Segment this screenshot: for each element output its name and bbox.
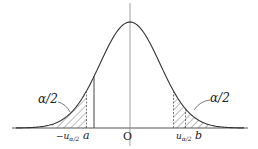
b-label: b: [195, 129, 202, 142]
u-label: uα/2: [176, 131, 192, 142]
left-tail-pointer: [58, 102, 70, 112]
left-tail-label: α/2: [38, 92, 58, 106]
a-label: a: [83, 129, 90, 142]
right-tail-pointer: [194, 100, 210, 110]
origin-label: O: [123, 130, 132, 143]
right-tail-label: α/2: [210, 91, 230, 105]
normal-distribution-diagram: α/2 α/2 −uα/2 a O uα/2 b: [0, 0, 258, 149]
neg-u-label: −uα/2: [56, 131, 79, 142]
